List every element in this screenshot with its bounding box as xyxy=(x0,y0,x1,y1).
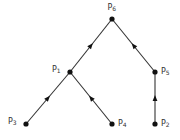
node-label-P5: P5 xyxy=(161,68,170,76)
arrowhead-icon xyxy=(153,95,158,101)
node-P3 xyxy=(23,121,28,126)
tree-diagram xyxy=(0,0,180,140)
node-label-P4: P4 xyxy=(118,120,127,128)
nodes xyxy=(23,16,157,126)
node-label-P6: P6 xyxy=(108,4,117,12)
node-P5 xyxy=(152,69,157,74)
node-P4 xyxy=(109,121,114,126)
edges xyxy=(26,19,157,124)
node-P1 xyxy=(67,69,72,74)
node-label-P3: P3 xyxy=(8,118,17,126)
node-label-P1: P1 xyxy=(52,66,61,74)
node-P6 xyxy=(109,16,114,21)
node-label-P2: P2 xyxy=(161,120,170,128)
node-P2 xyxy=(152,121,157,126)
